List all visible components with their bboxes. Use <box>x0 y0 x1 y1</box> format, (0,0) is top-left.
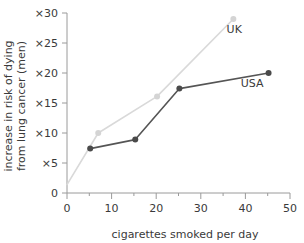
line-chart: 0×5×10×15×20×25×30 01020304050 UKUSA cig… <box>0 0 304 243</box>
x-tick-label: 30 <box>194 202 208 215</box>
data-point-usa <box>132 137 138 143</box>
y-axis-ticks: 0×5×10×15×20×25×30 <box>35 7 67 200</box>
y-tick-label: 0 <box>51 187 58 200</box>
x-tick-label: 20 <box>149 202 163 215</box>
x-tick-label: 40 <box>238 202 252 215</box>
chart-container: 0×5×10×15×20×25×30 01020304050 UKUSA cig… <box>0 0 304 243</box>
series-label-usa: USA <box>241 77 264 90</box>
y-axis-title-line2: from lung cancer (men) <box>15 41 28 171</box>
data-series-layer <box>67 16 272 185</box>
y-axis-title-line1: increase in risk of dying <box>2 40 15 171</box>
axes-group <box>67 13 290 193</box>
data-point-usa <box>266 70 272 76</box>
series-label-uk: UK <box>227 23 243 36</box>
x-tick-label: 10 <box>105 202 119 215</box>
y-tick-label: ×5 <box>42 157 58 170</box>
y-tick-label: ×25 <box>35 37 58 50</box>
series-annotations: UKUSA <box>227 23 264 90</box>
y-tick-label: ×20 <box>35 67 58 80</box>
y-tick-label: ×30 <box>35 7 58 20</box>
x-axis-ticks: 01020304050 <box>64 193 298 215</box>
data-point-uk <box>230 16 236 22</box>
data-point-uk <box>95 130 101 136</box>
data-point-usa <box>87 146 93 152</box>
series-line-uk <box>67 19 233 185</box>
x-tick-label: 50 <box>283 202 297 215</box>
x-axis-title: cigarettes smoked per day <box>112 228 259 241</box>
data-point-uk <box>154 93 160 99</box>
y-tick-label: ×15 <box>35 97 58 110</box>
x-tick-label: 0 <box>64 202 71 215</box>
y-tick-label: ×10 <box>35 127 58 140</box>
data-point-usa <box>176 86 182 92</box>
